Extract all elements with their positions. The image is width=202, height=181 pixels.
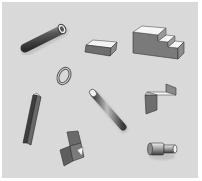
stepped-shaft-object — [148, 143, 178, 160]
square-bar-object — [23, 93, 41, 145]
folded-sheet-object — [60, 131, 84, 166]
ring-object — [56, 66, 73, 85]
scene-svg — [0, 0, 202, 181]
cylinder-rod-object — [88, 88, 124, 129]
bent-plate-object — [145, 84, 176, 114]
tube-object — [25, 23, 67, 51]
stair-block-object — [133, 26, 184, 59]
rectangular-block-object — [85, 40, 117, 56]
